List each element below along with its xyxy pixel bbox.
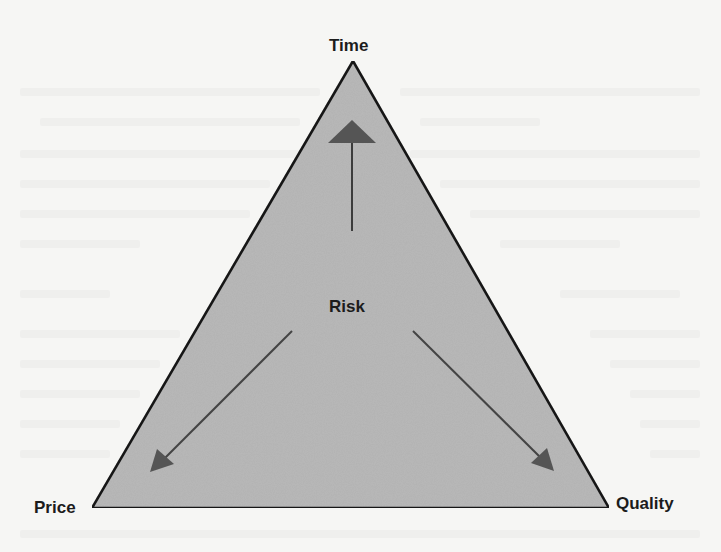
vertex-label-time: Time [329,37,368,54]
vertex-label-price: Price [34,499,76,516]
center-label-risk: Risk [329,298,365,315]
project-triangle-diagram [0,0,721,552]
vertex-label-quality: Quality [616,495,674,512]
page: Time Risk Price Quality [0,0,721,552]
